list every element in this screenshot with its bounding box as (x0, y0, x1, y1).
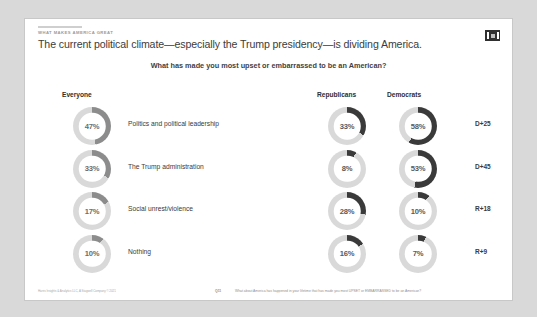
donut-value: 16% (340, 249, 355, 258)
logo-bar-left (487, 32, 489, 39)
donut-value: 58% (411, 122, 426, 131)
donut-value: 8% (342, 164, 353, 173)
footer-question-number: Q11 (215, 289, 221, 293)
donut-republicans-1: 8% (328, 150, 366, 188)
row-label: Politics and political leadership (128, 120, 219, 127)
donut-republicans-2: 28% (328, 192, 366, 230)
donut-value: 10% (85, 249, 100, 258)
donut-democrats-0: 58% (399, 107, 437, 145)
donut-everyone-3: 10% (73, 235, 111, 273)
donut-center: 7% (405, 240, 432, 267)
diff-badge: R+18 (475, 205, 491, 212)
donut-center: 10% (79, 240, 106, 267)
donut-democrats-2: 10% (399, 192, 437, 230)
donut-everyone-0: 47% (73, 107, 111, 145)
donut-center: 17% (79, 198, 106, 225)
row-label: Social unrest/violence (128, 205, 193, 212)
donut-center: 16% (334, 240, 361, 267)
page-title: The current political climate—especially… (38, 38, 422, 50)
column-header-republicans: Republicans (317, 91, 356, 98)
donut-value: 53% (411, 164, 426, 173)
table-row: 33%The Trump administration8%53%D+45 (25, 148, 512, 191)
row-label: The Trump administration (128, 163, 204, 170)
donut-democrats-3: 7% (399, 235, 437, 273)
donut-value: 28% (340, 207, 355, 216)
donut-center: 33% (79, 155, 106, 182)
donut-center: 58% (405, 113, 432, 140)
donut-center: 10% (405, 198, 432, 225)
donut-value: 47% (85, 122, 100, 131)
harris-poll-logo-icon (485, 30, 500, 41)
column-header-democrats: Democrats (387, 91, 421, 98)
donut-center: 28% (334, 198, 361, 225)
diff-badge: D+45 (475, 163, 491, 170)
donut-everyone-2: 17% (73, 192, 111, 230)
diff-badge: D+25 (475, 120, 491, 127)
column-header-everyone: Everyone (62, 91, 92, 98)
donut-center: 8% (334, 155, 361, 182)
donut-value: 7% (413, 249, 424, 258)
donut-everyone-1: 33% (73, 150, 111, 188)
chart-rows: 47%Politics and political leadership33%5… (25, 105, 512, 275)
eyebrow-label: WHAT MAKES AMERICA GREAT (38, 30, 113, 35)
sub-question: What has made you most upset or embarras… (25, 61, 512, 70)
donut-value: 33% (340, 122, 355, 131)
diff-badge: R+9 (475, 248, 487, 255)
donut-center: 47% (79, 113, 106, 140)
logo-bar-mid (491, 34, 495, 38)
logo-bar-right (497, 32, 499, 39)
donut-value: 33% (85, 164, 100, 173)
table-row: 10%Nothing16%7%R+9 (25, 233, 512, 276)
donut-republicans-0: 33% (328, 107, 366, 145)
donut-center: 53% (405, 155, 432, 182)
donut-center: 33% (334, 113, 361, 140)
footer-credit: Harris Insights & Analytics LLC, A Stagw… (38, 289, 116, 293)
accent-rule (38, 26, 82, 28)
footer-question-text: What about America has happened in your … (235, 289, 421, 293)
donut-value: 17% (85, 207, 100, 216)
donut-democrats-1: 53% (399, 150, 437, 188)
row-label: Nothing (128, 248, 151, 255)
donut-republicans-3: 16% (328, 235, 366, 273)
table-row: 17%Social unrest/violence28%10%R+18 (25, 190, 512, 233)
table-row: 47%Politics and political leadership33%5… (25, 105, 512, 148)
slide-card: WHAT MAKES AMERICA GREAT The current pol… (24, 18, 513, 301)
donut-value: 10% (411, 207, 426, 216)
